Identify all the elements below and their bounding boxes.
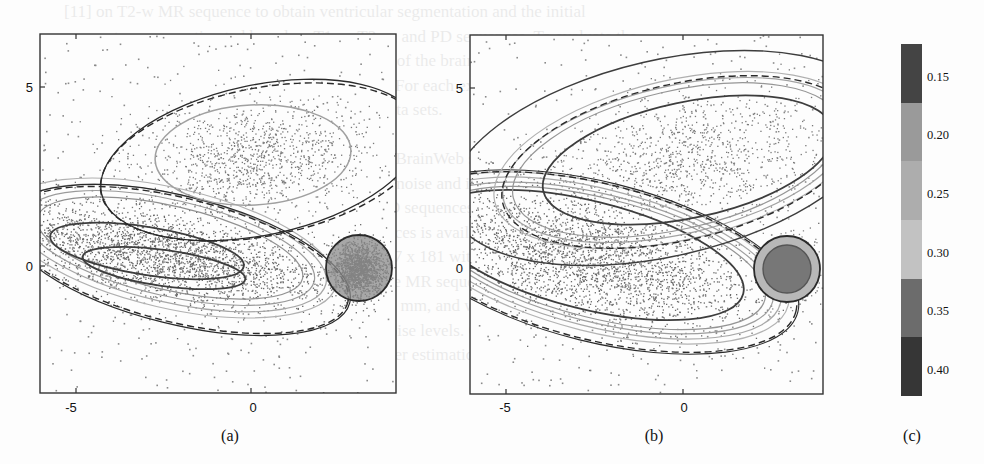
x-tick-a-0: 0 [249,400,256,415]
caption-c: (c) [903,427,921,445]
colorbar-c: 0.15 0.20 0.25 0.30 0.35 0.40 (c) [901,44,949,445]
x-tick-b-neg5: -5 [499,400,511,415]
y-tick-b-5: 5 [456,81,463,96]
colorbar-label-020: 0.20 [927,128,949,142]
circle-cluster-a [326,235,392,301]
caption-a: (a) [221,427,239,445]
colorbar-band-020 [901,103,922,161]
colorbar-band-015 [901,44,922,103]
colorbar-band-030 [901,220,922,279]
x-tick-b-0: 0 [680,400,687,415]
colorbar-band-025 [901,161,922,220]
colorbar-band-040 [901,337,922,396]
colorbar-label-015: 0.15 [927,70,949,84]
colorbar-label-035: 0.35 [927,304,949,318]
colorbar-label-040: 0.40 [927,363,949,377]
colorbar-band-035 [901,279,922,337]
panel-a: -5 0 5 0 (a) [0,34,523,445]
y-tick-a-0: 0 [26,259,33,274]
circle-cluster-b [754,236,820,302]
plot-area-a [40,34,396,393]
y-tick-a-5: 5 [26,80,33,95]
caption-b: (b) [645,427,664,445]
x-tick-a-neg5: -5 [65,400,77,415]
y-tick-b-0: 0 [456,261,463,276]
colorbar-label-025: 0.25 [927,187,949,201]
colorbar-label-030: 0.30 [927,246,949,260]
